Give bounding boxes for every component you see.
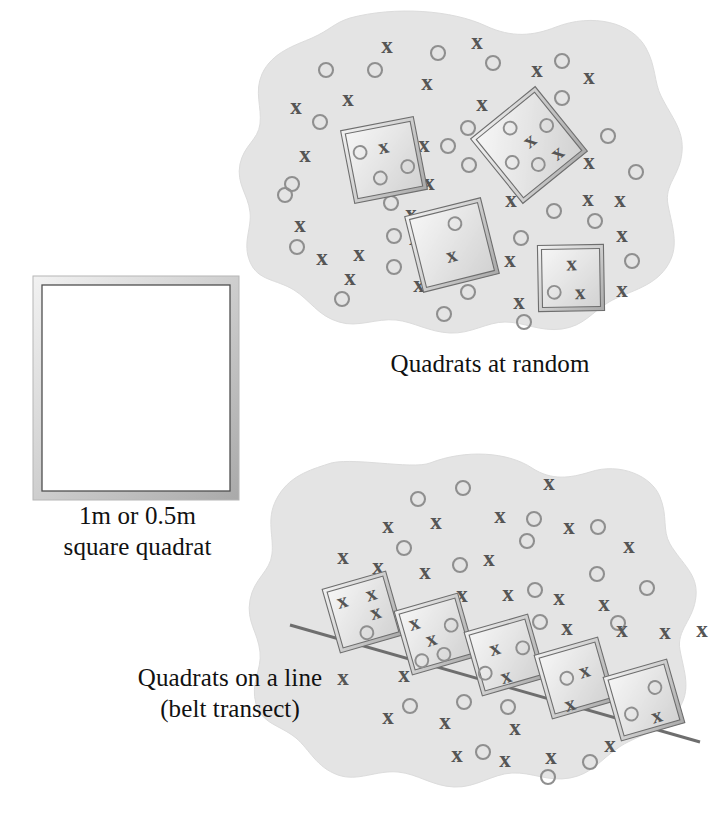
species-x-marker: x [659,619,671,644]
caption-quadrats-at-random: Quadrats at random [320,348,660,379]
species-x-marker: x [430,509,442,534]
species-x-marker: x [439,709,451,734]
species-x-marker: x [471,29,483,54]
species-x-marker: x [553,585,565,610]
species-x-marker: x [696,617,708,642]
species-x-marker: x [353,241,365,266]
quadrat-frame-random-1[interactable]: x [341,117,428,204]
species-x-marker: x [616,222,628,247]
species-x-marker: x [451,742,463,767]
species-x-marker: x [382,513,394,538]
quadrat-frame-random-4[interactable]: xx [537,244,604,311]
species-x-marker: x [483,546,495,571]
quadrat-frame-inner [345,121,422,198]
caption-square-quadrat: 1m or 0.5m square quadrat [10,500,265,562]
species-x-marker: x [381,33,393,58]
caption-quadrats-on-a-line: Quadrats on a line (belt transect) [80,662,380,724]
species-x-marker: x [344,265,356,290]
species-x-marker: x [502,581,514,606]
species-x-marker: x [543,470,555,495]
species-x-marker: x [499,747,511,772]
species-x-marker: x [575,280,586,304]
species-x-marker: x [382,704,394,729]
species-x-marker: x [294,212,306,237]
species-x-marker: x [623,533,635,558]
species-x-marker: x [419,559,431,584]
species-x-marker: x [398,662,410,687]
species-x-marker: x [614,187,626,212]
panel-quadrats-at-random: xxxxxxxxxxxxxxxxxxxxxxxxxx xxxxxx [239,11,682,333]
square-quadrat-frame-inner [42,285,230,491]
species-x-marker: x [545,744,557,769]
species-x-marker: x [598,591,610,616]
species-x-marker: x [531,57,543,82]
species-x-marker: x [342,86,354,111]
species-x-marker: x [566,251,577,275]
species-x-marker: x [616,277,628,302]
species-x-marker: x [290,94,302,119]
species-x-marker: x [583,64,595,89]
species-x-marker: x [604,732,616,757]
panel-square-quadrat [33,276,239,500]
species-x-marker: x [563,514,575,539]
species-x-marker: x [494,503,506,528]
species-x-marker: x [513,289,525,314]
species-x-marker: x [299,142,311,167]
species-x-marker: x [316,245,328,270]
species-x-marker: x [476,91,488,116]
species-x-marker: x [582,186,594,211]
panel-belt-transect: xxxxxxxxxxxxxxxxxxxxxxxxxxx xxxxxxxxxx [249,454,708,787]
species-x-marker: x [337,544,349,569]
species-x-marker: x [421,70,433,95]
species-x-marker: x [504,247,516,272]
species-x-marker: x [561,615,573,640]
species-x-marker: x [509,715,521,740]
species-x-marker: x [616,617,628,642]
